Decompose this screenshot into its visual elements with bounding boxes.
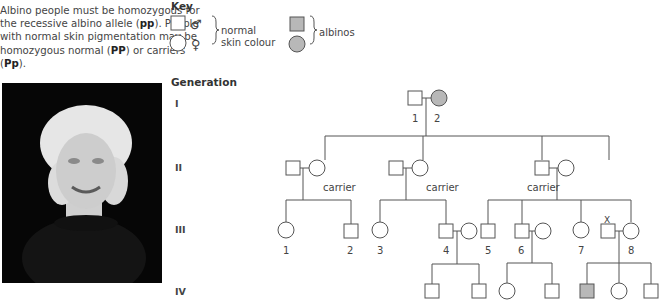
gen3-spouse-4 xyxy=(461,223,477,239)
gen4-male-d xyxy=(545,284,559,298)
gen1-label-2: 2 xyxy=(434,113,440,124)
gen3-male-x xyxy=(601,224,615,238)
gen3-spouse-6 xyxy=(535,223,551,239)
gen3-male-2 xyxy=(344,224,358,238)
gen4-female-c xyxy=(499,283,515,299)
gen3-male-5 xyxy=(481,224,495,238)
key-female-symbol: ♀ xyxy=(191,37,201,52)
gen1-female-2-albino xyxy=(431,90,447,106)
gen3-male-6 xyxy=(515,224,529,238)
key-female-circle xyxy=(170,35,186,51)
gen4-male-f xyxy=(644,284,658,298)
gen3-label-3: 3 xyxy=(377,245,383,256)
key-albino-label: albinos xyxy=(319,27,355,38)
gen4-male-a xyxy=(425,284,439,298)
carrier-label-b: carrier xyxy=(426,182,460,193)
key-normal-label-2: skin colour xyxy=(221,37,276,48)
gen3-label-7: 7 xyxy=(578,245,584,256)
key-male-symbol: ♂ xyxy=(190,17,202,32)
gen3-label-4: 4 xyxy=(443,245,449,256)
key-normal-label-1: normal xyxy=(221,25,256,36)
gen3-female-7 xyxy=(573,222,589,238)
key-albino-circle xyxy=(289,36,305,52)
gen1-label-1: 1 xyxy=(412,113,418,124)
gen3-male-4 xyxy=(439,224,453,238)
gen2-female-b-carrier xyxy=(412,160,428,176)
gen3-label-2: 2 xyxy=(347,245,353,256)
gen2-male-a xyxy=(286,161,300,175)
gen3-label-8: 8 xyxy=(628,245,634,256)
key-male-square xyxy=(171,16,185,30)
key-normal-brace xyxy=(212,16,219,44)
gen2-female-c xyxy=(558,160,574,176)
carrier-label-a: carrier xyxy=(323,182,357,193)
gen3-label-6: 6 xyxy=(518,245,524,256)
gen2-male-c-carrier xyxy=(535,161,549,175)
gen3-female-8 xyxy=(623,223,639,239)
gen2-female-a-carrier xyxy=(309,160,325,176)
gen4-female-e xyxy=(611,283,627,299)
gen2-male-b xyxy=(389,161,403,175)
gen1-male-1 xyxy=(408,91,422,105)
gen4-male-albino xyxy=(580,284,594,298)
gen3-female-3 xyxy=(372,222,388,238)
gen4-male-b xyxy=(472,284,486,298)
gen3-marker-x: X xyxy=(604,215,610,225)
key-albino-square xyxy=(290,17,304,31)
gen3-label-1: 1 xyxy=(283,245,289,256)
carrier-label-c: carrier xyxy=(527,182,561,193)
gen3-label-5: 5 xyxy=(485,245,491,256)
pedigree-chart: ♂ ♀ normal skin colour albinos 1 2 carri… xyxy=(0,0,661,303)
gen3-female-1 xyxy=(278,222,294,238)
key-albino-brace xyxy=(310,16,317,44)
